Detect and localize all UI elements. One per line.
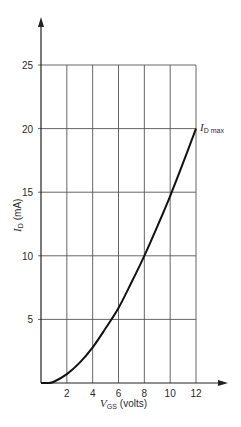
x-tick-label: 2: [64, 388, 70, 399]
y-tick-labels: 510152025: [22, 60, 34, 325]
annotation-id-max: ID max: [199, 121, 224, 134]
x-tick-label: 10: [165, 388, 177, 399]
y-tick-label: 5: [27, 314, 33, 325]
transfer-characteristic-chart: 24681012 510152025 ID max VGS(volts) ID(…: [0, 0, 241, 427]
annotation-subscript: D max: [204, 127, 225, 134]
y-axis-label: ID(mA): [11, 199, 24, 233]
y-axis-arrow-icon: [38, 17, 44, 27]
x-axis-arrow-icon: [218, 380, 228, 386]
grid-lines: [38, 65, 196, 383]
x-label-unit: (volts): [120, 398, 147, 409]
y-tick-label: 15: [22, 187, 34, 198]
y-tick-label: 20: [22, 124, 34, 135]
x-label-subscript: GS: [107, 403, 117, 410]
x-tick-label: 12: [190, 388, 202, 399]
y-label-unit: (mA): [12, 199, 23, 221]
x-tick-label: 4: [90, 388, 96, 399]
y-tick-label: 10: [22, 251, 34, 262]
y-tick-label: 25: [22, 60, 34, 71]
y-label-subscript: D: [17, 223, 24, 228]
x-axis-label: VGS(volts): [100, 397, 147, 410]
